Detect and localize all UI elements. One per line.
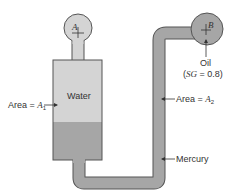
bulb-a-label: A (71, 22, 78, 32)
svg-text:(SG = 0.8): (SG = 0.8) (183, 69, 223, 79)
area-a2-prefix: Area = (176, 94, 205, 104)
oil-label: Oil (200, 58, 211, 68)
area-a1-subscript: 1 (43, 105, 47, 111)
mercury-annotation: Mercury (161, 154, 209, 164)
oil-annotation: Oil (SG = 0.8) (183, 39, 223, 79)
manometer-diagram: B A Water Area = A1 Area = A2 M (0, 0, 231, 193)
area-a1-prefix: Area = (8, 100, 37, 110)
svg-text:Area = A1: Area = A1 (8, 100, 47, 111)
area-a2-subscript: 2 (211, 99, 215, 105)
area-a1-annotation: Area = A1 (8, 100, 58, 111)
bulb-b-label: B (208, 20, 214, 30)
tank: Water (53, 60, 102, 163)
bulb-a: A (64, 14, 92, 62)
mercury-label: Mercury (176, 154, 209, 164)
svg-text:Area = A2: Area = A2 (176, 94, 215, 105)
oil-sg-symbol: SG (186, 69, 198, 79)
water-label: Water (67, 91, 91, 101)
bulb-b: B (191, 13, 223, 45)
area-a2-annotation: Area = A2 (161, 94, 215, 105)
oil-sg-value: = 0.8) (197, 69, 223, 79)
